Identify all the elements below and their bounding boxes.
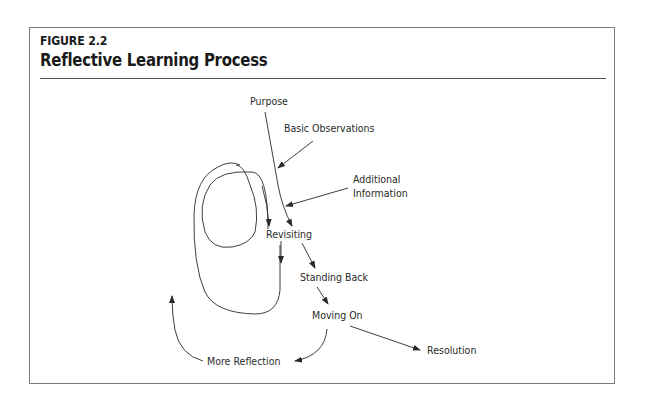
basic-observations-arrow (278, 141, 313, 168)
node-additional-information-line2: Information (353, 187, 408, 199)
node-more-reflection: More Reflection (207, 355, 280, 367)
more-reflection-to-loop-arrow (172, 296, 203, 361)
node-revisiting: Revisiting (266, 228, 312, 240)
node-standing-back: Standing Back (300, 271, 368, 283)
revisiting-to-standing-back-arrow (302, 243, 315, 268)
node-purpose: Purpose (250, 95, 288, 107)
moving-on-to-resolution-arrow (350, 326, 420, 350)
node-basic-observations: Basic Observations (284, 122, 374, 134)
inner-loop-arrow (202, 165, 268, 247)
node-moving-on: Moving On (312, 309, 363, 321)
moving-on-to-more-reflection-arrow (295, 329, 327, 361)
standing-back-to-moving-on-arrow (317, 287, 328, 304)
diagram-canvas (0, 0, 647, 406)
additional-information-arrow (286, 188, 348, 206)
node-resolution: Resolution (427, 344, 476, 356)
node-additional-information-line1: Additional (353, 173, 400, 185)
